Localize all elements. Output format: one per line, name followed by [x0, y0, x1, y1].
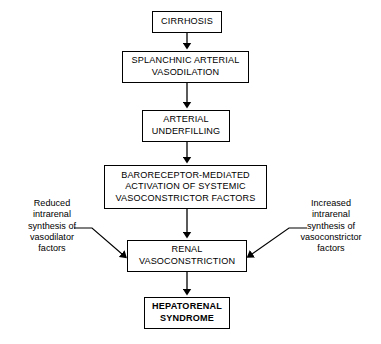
node-baroreceptor-mediated-activation: BARORECEPTOR-MEDIATED ACTIVATION OF SYST… [104, 165, 267, 209]
flowchart-diagram: CIRRHOSIS SPLANCHNIC ARTERIAL VASODILATI… [0, 0, 381, 344]
node-arterial-underfilling: ARTERIAL UNDERFILLING [142, 110, 230, 142]
node-splanchnic-arterial-vasodilation: SPLANCHNIC ARTERIAL VASODILATION [122, 51, 249, 83]
annotation-increased-vasoconstrictor-synthesis: Increased intrarenal synthesis of vasoco… [284, 198, 378, 254]
annotation-reduced-vasodilator-synthesis: Reduced intrarenal synthesis of vasodila… [6, 198, 98, 254]
node-hepatorenal-syndrome: HEPATORENAL SYNDROME [144, 297, 230, 329]
node-renal-vasoconstriction: RENAL VASOCONSTRICTION [127, 240, 247, 272]
node-cirrhosis: CIRRHOSIS [152, 11, 222, 33]
